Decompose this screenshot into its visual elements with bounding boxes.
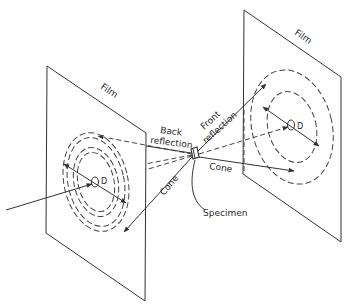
left-cone-label: Cone — [158, 173, 181, 197]
specimen-label: Specimen — [203, 208, 247, 218]
back-reflection-cone-ray — [124, 157, 192, 232]
left-film-outline — [46, 66, 146, 301]
left-outer-ring — [54, 126, 137, 237]
right-film-outline — [243, 10, 341, 242]
right-cone-label: Cone — [209, 161, 234, 174]
left-inner-ring — [67, 143, 125, 221]
right-film-label: Film — [293, 27, 314, 46]
xray-diffraction-diagram: Film Film Back reflection Front reflecti… — [0, 0, 350, 308]
incident-beam — [6, 184, 92, 210]
left-inner-ring-inner — [72, 149, 120, 215]
left-film — [46, 66, 146, 301]
left-film-label: Film — [99, 81, 120, 100]
left-outer-ring-inner — [59, 132, 132, 232]
left-d-dimension-arrow — [64, 164, 126, 203]
specimen-leader-line — [192, 160, 205, 210]
right-film — [239, 10, 345, 242]
right-d-label: D — [297, 122, 303, 131]
left-d-label: D — [101, 177, 107, 186]
